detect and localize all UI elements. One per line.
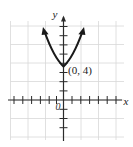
grid-lines	[11, 21, 125, 140]
y-axis-arrowhead	[61, 16, 66, 22]
origin-label: 0	[56, 101, 61, 112]
vertex-point-label: (0, 4)	[68, 64, 92, 77]
coordinate-plane-svg: y x 0 (0, 4)	[0, 0, 133, 147]
parabola-right-arrowhead	[78, 27, 85, 35]
x-axis-label: x	[123, 95, 129, 107]
y-axis-label: y	[52, 8, 58, 20]
graph-figure: y x 0 (0, 4)	[0, 0, 133, 147]
